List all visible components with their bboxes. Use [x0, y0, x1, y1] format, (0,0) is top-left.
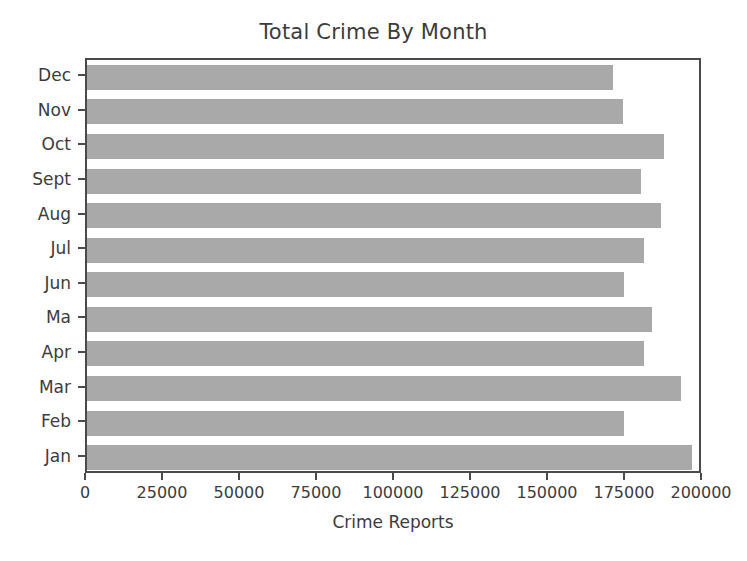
- x-tick-mark: [700, 473, 702, 480]
- y-tick-label-ma: Ma: [46, 307, 71, 327]
- bar-row: [87, 411, 701, 436]
- bar-ma: [87, 307, 652, 332]
- x-tick-label-0: 0: [80, 483, 90, 502]
- y-tick-label-mar: Mar: [39, 377, 71, 397]
- x-tick-label-50000: 50000: [214, 483, 265, 502]
- x-tick-label-25000: 25000: [137, 483, 188, 502]
- y-tick-label-jun: Jun: [44, 273, 71, 293]
- x-tick-label-100000: 100000: [362, 483, 423, 502]
- y-tick-mark: [78, 316, 85, 318]
- bar-row: [87, 238, 701, 263]
- y-tick-mark: [78, 351, 85, 353]
- x-tick-mark: [161, 473, 163, 480]
- bar-apr: [87, 341, 644, 366]
- bar-row: [87, 376, 701, 401]
- bar-row: [87, 307, 701, 332]
- x-tick-mark: [84, 473, 86, 480]
- bar-row: [87, 272, 701, 297]
- bar-row: [87, 99, 701, 124]
- bar-row: [87, 341, 701, 366]
- bar-row: [87, 169, 701, 194]
- x-tick-mark: [469, 473, 471, 480]
- y-tick-mark: [78, 282, 85, 284]
- bar-nov: [87, 99, 623, 124]
- y-tick-label-oct: Oct: [42, 134, 71, 154]
- y-tick-mark: [78, 109, 85, 111]
- y-tick-mark: [78, 178, 85, 180]
- x-tick-label-125000: 125000: [439, 483, 500, 502]
- x-tick-mark: [238, 473, 240, 480]
- y-tick-mark: [78, 455, 85, 457]
- x-tick-mark: [315, 473, 317, 480]
- y-tick-mark: [78, 386, 85, 388]
- x-tick-label-175000: 175000: [593, 483, 654, 502]
- bar-aug: [87, 203, 661, 228]
- bar-dec: [87, 65, 613, 90]
- bar-sept: [87, 169, 641, 194]
- y-tick-mark: [78, 420, 85, 422]
- y-tick-mark: [78, 247, 85, 249]
- x-tick-mark: [392, 473, 394, 480]
- x-tick-mark: [546, 473, 548, 480]
- bar-row: [87, 65, 701, 90]
- y-tick-mark: [78, 213, 85, 215]
- x-tick-label-200000: 200000: [670, 483, 731, 502]
- x-axis: 0250005000075000100000125000150000175000…: [85, 473, 701, 513]
- y-tick-mark: [78, 74, 85, 76]
- y-tick-label-dec: Dec: [38, 65, 71, 85]
- y-tick-label-nov: Nov: [38, 100, 71, 120]
- x-tick-label-75000: 75000: [291, 483, 342, 502]
- bar-row: [87, 203, 701, 228]
- y-tick-label-sept: Sept: [32, 169, 71, 189]
- y-tick-label-jul: Jul: [50, 238, 71, 258]
- bar-jul: [87, 238, 644, 263]
- plot-area: [85, 58, 701, 473]
- x-axis-title: Crime Reports: [85, 512, 701, 532]
- bar-row: [87, 134, 701, 159]
- bar-feb: [87, 411, 624, 436]
- bar-jan: [87, 445, 692, 470]
- y-tick-label-aug: Aug: [38, 204, 71, 224]
- bar-mar: [87, 376, 681, 401]
- chart-figure: Total Crime By Month DecNovOctSeptAugJul…: [0, 0, 747, 561]
- y-tick-mark: [78, 143, 85, 145]
- bar-row: [87, 445, 701, 470]
- bar-jun: [87, 272, 624, 297]
- y-tick-label-apr: Apr: [42, 342, 71, 362]
- y-tick-label-jan: Jan: [45, 446, 71, 466]
- bar-oct: [87, 134, 664, 159]
- x-tick-mark: [623, 473, 625, 480]
- page-title: Total Crime By Month: [0, 20, 747, 44]
- y-axis: DecNovOctSeptAugJulJunMaAprMarFebJan: [0, 58, 85, 473]
- y-tick-label-feb: Feb: [41, 411, 71, 431]
- x-tick-label-150000: 150000: [516, 483, 577, 502]
